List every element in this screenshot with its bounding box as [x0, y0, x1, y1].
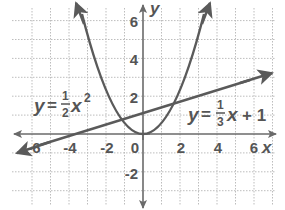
- parabola-arrow-left: [76, 3, 84, 24]
- svg-text:+ 1: + 1: [242, 106, 266, 125]
- y-tick: 6: [130, 13, 138, 30]
- x-tick: 6: [250, 139, 258, 156]
- parabola-arrow-right: [202, 3, 210, 24]
- svg-text:y: y: [33, 95, 46, 116]
- svg-text:3: 3: [217, 115, 224, 129]
- y-tick: 2: [130, 89, 138, 106]
- svg-text:1: 1: [217, 98, 224, 112]
- svg-text:1: 1: [62, 89, 69, 103]
- y-tick: -2: [125, 165, 138, 182]
- svg-text:=: =: [47, 96, 57, 115]
- y-tick: 4: [130, 51, 139, 68]
- svg-text:=: =: [201, 105, 211, 124]
- x-tick: -6: [27, 139, 40, 156]
- x-tick-origin: 0: [131, 139, 139, 156]
- line-arrow-right: [240, 73, 272, 83]
- x-tick: -2: [100, 139, 113, 156]
- coordinate-plane: -6 -4 -2 0 2 4 6 6 4 2 -2 x y y = 1 2 x …: [0, 0, 285, 210]
- svg-text:2: 2: [84, 91, 91, 105]
- y-tick-labels: 6 4 2 -2: [125, 13, 139, 182]
- svg-text:2: 2: [62, 106, 69, 120]
- x-tick: 2: [177, 139, 185, 156]
- y-axis-label: y: [149, 0, 161, 18]
- svg-text:x: x: [226, 104, 239, 125]
- svg-text:y: y: [187, 104, 200, 125]
- x-tick: -4: [63, 139, 77, 156]
- x-tick: 4: [214, 139, 223, 156]
- svg-text:x: x: [70, 95, 83, 116]
- x-axis-label: x: [261, 138, 273, 157]
